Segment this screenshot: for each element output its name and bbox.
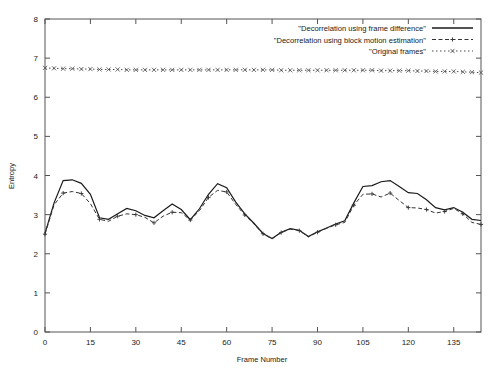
x-tick-label: 135: [447, 338, 461, 347]
y-tick-label: 6: [34, 93, 39, 102]
x-tick-label: 60: [222, 338, 231, 347]
x-tick-label: 15: [86, 338, 95, 347]
y-tick-label: 8: [34, 15, 39, 24]
x-tick-label: 30: [131, 338, 140, 347]
x-tick-label: 0: [43, 338, 48, 347]
x-axis-label: Frame Number: [237, 355, 288, 364]
legend-label-1: "Decorrelation using block motion estima…: [274, 36, 427, 45]
x-tick-label: 105: [356, 338, 370, 347]
x-tick-label: 120: [402, 338, 416, 347]
chart-canvas: 012345678 0153045607590105120135 Entropy…: [0, 0, 496, 371]
x-tick-label: 75: [268, 338, 277, 347]
legend-label-2: "Original frames": [369, 47, 426, 56]
legend-label-0: "Decorrelation using frame difference": [298, 24, 426, 33]
entropy-line-chart: 012345678 0153045607590105120135 Entropy…: [0, 0, 496, 371]
y-tick-label: 4: [34, 172, 39, 181]
y-tick-label: 3: [34, 211, 39, 220]
y-tick-label: 1: [34, 289, 39, 298]
y-tick-label: 7: [34, 54, 39, 63]
y-axis-label: Entropy: [7, 163, 16, 189]
y-tick-label: 0: [34, 328, 39, 337]
x-tick-label: 45: [177, 338, 186, 347]
y-tick-label: 2: [34, 250, 39, 259]
x-tick-label: 90: [313, 338, 322, 347]
y-tick-label: 5: [34, 132, 39, 141]
